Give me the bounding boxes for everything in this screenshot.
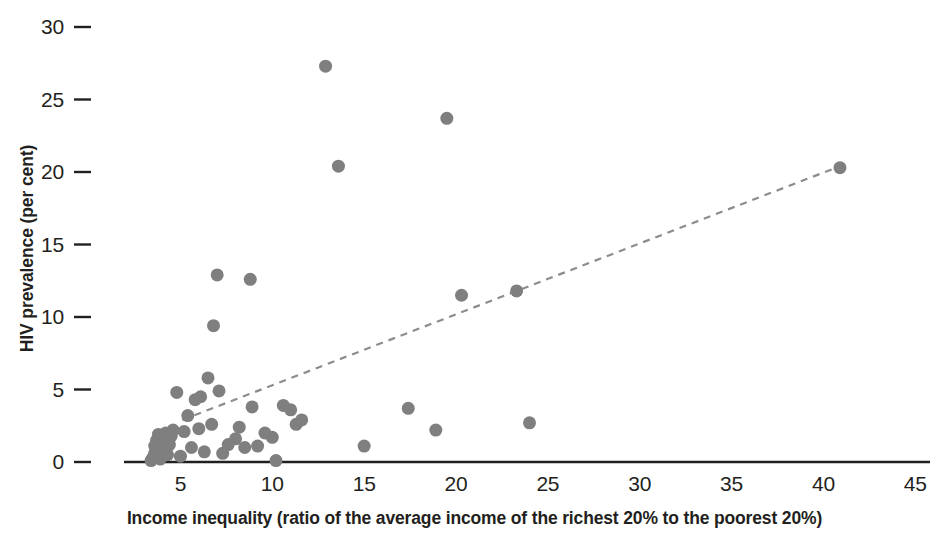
data-point xyxy=(167,424,180,437)
data-point xyxy=(211,268,224,281)
y-tick-label: 0 xyxy=(20,450,64,474)
data-point xyxy=(358,440,371,453)
data-point xyxy=(402,402,415,415)
x-tick-label: 30 xyxy=(628,472,651,496)
data-point xyxy=(266,431,279,444)
x-tick-label: 45 xyxy=(904,472,927,496)
y-axis-ticks xyxy=(74,27,91,462)
data-point xyxy=(295,413,308,426)
data-point xyxy=(181,409,194,422)
data-point xyxy=(455,289,468,302)
hiv-prevalence-scatter-chart: 051015202530 51015202530354045 HIV preva… xyxy=(0,0,949,539)
x-axis-title: Income inequality (ratio of the average … xyxy=(0,508,949,529)
data-point xyxy=(244,273,257,286)
data-point xyxy=(233,421,246,434)
x-tick-label: 10 xyxy=(261,472,284,496)
data-points xyxy=(145,60,847,467)
data-point xyxy=(185,441,198,454)
x-tick-label: 20 xyxy=(445,472,468,496)
data-point xyxy=(269,454,282,467)
data-point xyxy=(440,112,453,125)
data-point xyxy=(523,416,536,429)
data-point xyxy=(833,161,846,174)
data-point xyxy=(246,400,259,413)
plot-area xyxy=(0,0,949,539)
x-tick-label: 5 xyxy=(175,472,186,496)
data-point xyxy=(429,424,442,437)
data-point xyxy=(319,60,332,73)
data-point xyxy=(178,425,191,438)
x-tick-label: 35 xyxy=(720,472,743,496)
data-point xyxy=(213,384,226,397)
data-point xyxy=(207,319,220,332)
y-tick-label: 30 xyxy=(20,15,64,39)
data-point xyxy=(198,445,211,458)
y-axis-title: HIV prevalence (per cent) xyxy=(17,69,38,429)
data-point xyxy=(192,422,205,435)
data-point xyxy=(238,441,251,454)
data-point xyxy=(194,390,207,403)
data-point xyxy=(510,284,523,297)
x-tick-label: 40 xyxy=(812,472,835,496)
data-point xyxy=(284,403,297,416)
data-point xyxy=(170,386,183,399)
x-tick-label: 15 xyxy=(353,472,376,496)
x-tick-label: 25 xyxy=(536,472,559,496)
data-point xyxy=(205,418,218,431)
data-point xyxy=(201,371,214,384)
data-point xyxy=(332,160,345,173)
data-point xyxy=(174,450,187,463)
data-point xyxy=(251,440,264,453)
